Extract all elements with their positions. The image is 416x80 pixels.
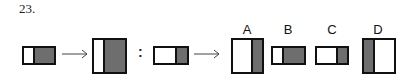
gray-segment <box>253 40 262 72</box>
ratio-separator: : <box>138 44 143 60</box>
option-b-label: B <box>278 22 298 37</box>
white-segment <box>24 48 35 63</box>
option-d-figure[interactable] <box>362 38 396 74</box>
gray-segment <box>338 48 347 63</box>
gray-segment <box>284 48 304 63</box>
question-number: 23. <box>19 1 35 17</box>
white-segment <box>155 48 177 63</box>
figure-1-short-rect <box>22 46 56 65</box>
white-segment <box>94 40 105 72</box>
gray-segment <box>35 48 54 63</box>
white-segment <box>273 48 284 63</box>
arrow-right-icon <box>194 48 221 60</box>
gray-segment <box>105 40 125 72</box>
white-segment <box>317 48 338 63</box>
option-a-label: A <box>237 22 257 37</box>
figure-2-tall-rect <box>92 38 127 74</box>
figure-3-short-rect <box>153 46 189 65</box>
option-a-figure[interactable] <box>231 38 264 74</box>
gray-segment <box>177 48 187 63</box>
option-c-figure[interactable] <box>315 46 349 65</box>
gray-segment <box>364 40 375 72</box>
option-d-label: D <box>368 22 388 37</box>
option-c-label: C <box>322 22 342 37</box>
arrow-right-icon <box>62 48 89 60</box>
option-b-figure[interactable] <box>271 46 306 65</box>
white-segment <box>375 40 394 72</box>
white-segment <box>233 40 253 72</box>
